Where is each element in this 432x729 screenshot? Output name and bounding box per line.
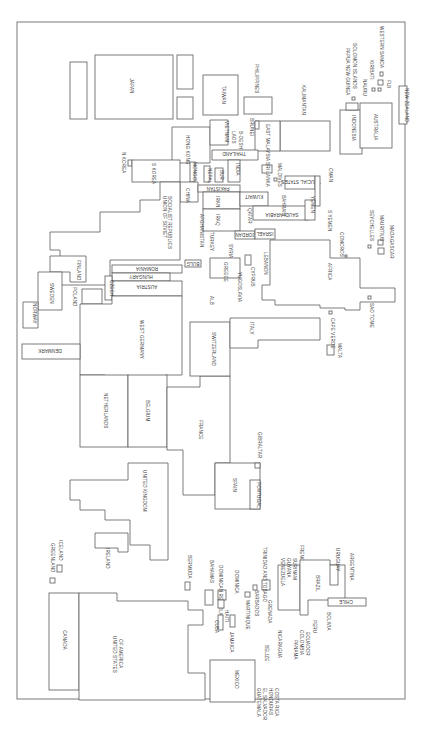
country-ireland <box>95 533 128 552</box>
label-burma: BUR <box>219 170 224 181</box>
label-sweden: SWEDEN <box>49 283 54 304</box>
label-belize: BELIZE <box>264 645 269 661</box>
label-barbados: BARBADOS <box>254 590 259 616</box>
country-kalimantan <box>280 121 330 151</box>
label-jordan: JORDAN <box>235 232 255 237</box>
label-canada: CANADA <box>62 630 67 651</box>
country-iran <box>203 192 240 209</box>
country-usa <box>79 593 205 700</box>
label-brunei: BRUNEI <box>249 118 254 136</box>
country-taiwan <box>203 75 238 115</box>
label-guyana: GUYANA <box>286 558 291 578</box>
label-fiji: FIJI <box>386 80 391 88</box>
label-n-korea: N KOREA <box>121 152 126 174</box>
label-laos: LAOS <box>231 131 236 144</box>
label-romania: ROMANIA <box>135 266 158 271</box>
country-comoros <box>345 255 347 257</box>
label-bulgaria: BULG <box>186 261 199 266</box>
country-iraq <box>203 209 240 231</box>
label-bahamas: BAHAMAS <box>209 560 214 583</box>
label-colombia: COLOMBIA <box>299 630 304 656</box>
label-taiwan: TAIWAN <box>221 86 226 104</box>
label-bangladesh: B-DESH <box>238 131 243 149</box>
country-indonesia <box>340 110 362 154</box>
label-grenada: GRENADA <box>267 600 272 624</box>
label-surinam: SURINAM <box>292 558 297 580</box>
label-panama: PANAMA <box>293 640 298 660</box>
country-iceland <box>57 565 62 572</box>
label-new-zealand: NEW ZEALAND <box>404 88 409 123</box>
label-western-samoa: WESTERN SAMOA <box>379 26 384 69</box>
label-kuwait: KUWAIT <box>245 194 263 199</box>
label-austria: AUSTRIA <box>136 284 157 289</box>
label-portugal: PORTUGAL <box>256 482 261 508</box>
label-iceland: ICELAND <box>58 540 63 561</box>
country-fiji <box>378 80 383 85</box>
country-martinique <box>245 592 250 597</box>
country-maldives <box>274 178 277 181</box>
label-s-yemen: S YEMEN <box>327 210 332 231</box>
label-seychelles: SEYCHELLES <box>369 210 374 241</box>
label-nauru: NAURU <box>362 79 367 96</box>
label-yemen: YEMEN <box>310 196 315 213</box>
country-papua-new-guinea <box>346 103 358 110</box>
label-china: CHINA <box>185 188 190 204</box>
label-france: FRANCE <box>198 420 203 440</box>
label-gibraltar: GIBRALTAR <box>257 432 262 459</box>
label-syria: SYRIA <box>228 244 233 259</box>
country-unlabeled-2 <box>177 55 193 89</box>
country-cyprus <box>245 255 251 265</box>
label-czech: CZECH <box>109 280 114 296</box>
label-uruguay: URUGUAY <box>335 548 340 571</box>
country-seychelles <box>368 245 371 248</box>
label-kalimantan: KALIMANTAN <box>301 85 306 115</box>
label-cape-verde: CAPE VERDE <box>330 318 335 349</box>
country-solomon-islands <box>352 97 355 100</box>
label-poland: POLAND <box>72 287 77 307</box>
label-greece: GREECE <box>223 262 228 282</box>
country-sao-tome <box>368 296 371 299</box>
label-dominican-republic: DOMINICAN REPUBLIC <box>218 565 223 618</box>
label-usa-1: UNITED STATES <box>112 636 117 673</box>
label-afghanistan: AFGHANISTAN <box>199 214 204 247</box>
label-indonesia: INDONESIA <box>351 115 356 142</box>
label-guatemala: GUATEMALA <box>256 688 261 718</box>
label-italy: ITALY <box>249 322 254 335</box>
label-hong-kong: HONG KONG <box>185 135 190 165</box>
country-mexico <box>210 660 255 702</box>
country-nauru <box>372 88 375 91</box>
label-ireland: IRELAND <box>105 548 110 569</box>
label-pakistan: PAKISTAN <box>207 186 230 191</box>
label-venezuela: VENEZUELA <box>280 558 285 587</box>
country-poland <box>82 289 102 304</box>
label-israel: ISRAEL <box>256 231 273 236</box>
label-haiti: HAITI <box>224 610 229 622</box>
label-nicaragua: NICARAGUA <box>277 630 282 659</box>
label-denmark: DENMARK <box>37 348 62 353</box>
label-ecuador: ECUADOR <box>305 632 310 656</box>
country-western-samoa <box>380 72 383 76</box>
label-hungary: HUNGARY <box>129 274 153 279</box>
label-trinidad: TRINIDAD AND TOBAGO <box>262 547 267 602</box>
label-el-salvador: EL SALVADOR <box>262 688 267 721</box>
label-mauritius: MAURITIUS <box>379 215 384 241</box>
country-cape-verde <box>329 311 332 314</box>
label-bolivia: BOLIVIA <box>326 612 331 631</box>
label-qatar: QATAR <box>247 208 252 224</box>
country-bermuda <box>185 582 190 590</box>
country-n-korea <box>128 160 132 166</box>
label-solomon-islands: SOLOMON ISLANDS <box>352 43 357 89</box>
label-thailand: THAILAND <box>222 151 246 156</box>
label-lebanon: LEBANON <box>263 252 268 275</box>
label-s-korea: S KOREA <box>151 163 156 185</box>
label-cuba: CUBA <box>214 620 219 634</box>
label-sao-tome: SAO TOME <box>369 303 374 328</box>
country-west-germany <box>80 296 182 385</box>
label-west-germany: WEST GERMANY <box>139 320 144 359</box>
label-united-kingdom: UNITED KINGDOM <box>142 470 147 512</box>
label-brazil: BRAZIL <box>315 575 320 592</box>
label-peru: PERU <box>312 620 317 633</box>
country-unlabeled-3 <box>177 97 193 119</box>
label-maldives: MALDIVES <box>277 163 282 187</box>
label-albania: ALB <box>209 296 214 305</box>
